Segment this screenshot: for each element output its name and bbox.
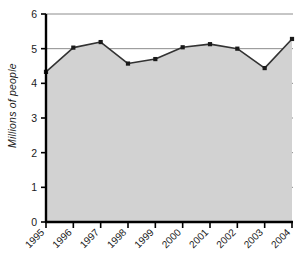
data-point-marker (235, 47, 239, 51)
y-tick-label: 3 (31, 112, 37, 124)
data-point-marker (208, 42, 212, 46)
y-tick-label: 2 (31, 147, 37, 159)
data-point-marker (263, 66, 267, 70)
data-point-marker (126, 61, 130, 65)
y-axis-title: Millions of people (6, 63, 18, 148)
y-tick-label: 0 (31, 216, 37, 228)
data-point-marker (71, 46, 75, 50)
data-point-marker (99, 40, 103, 44)
chart-container: 0123456 19951996199719981999200020012002… (0, 0, 305, 265)
data-point-marker (181, 45, 185, 49)
data-point-marker (290, 37, 294, 41)
y-tick-label: 6 (31, 8, 37, 20)
series-area-fill (46, 39, 292, 222)
y-tick-label: 1 (31, 181, 37, 193)
y-tick-label: 4 (31, 77, 37, 89)
data-point-marker (153, 57, 157, 61)
line-area-chart: 0123456 19951996199719981999200020012002… (0, 0, 305, 265)
y-tick-label: 5 (31, 43, 37, 55)
